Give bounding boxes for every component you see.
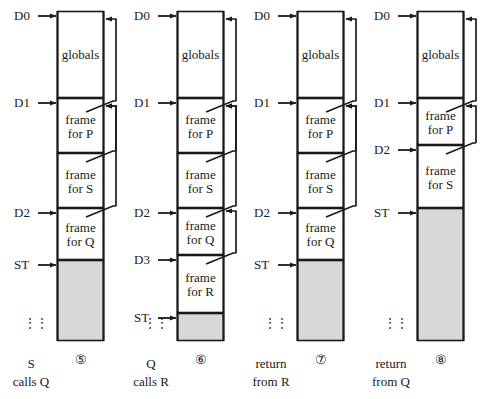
panel-6-static-link-arrow-1 (226, 106, 236, 151)
panel-6-static-link-arrow-3 (226, 211, 236, 253)
panel-5-label-frame-P-line1: frame (57, 113, 104, 127)
panel-8-static-link-arrow-1 (466, 106, 476, 143)
panel-6-label-globals-line1: globals (177, 48, 224, 62)
panel-8-register-label-D1: D1 (374, 96, 390, 109)
panel-8-label-frame-P-line1: frame (417, 109, 464, 123)
panel-8-register-label-ST: ST (374, 206, 389, 219)
panel-7-label-frame-P-line1: frame (297, 113, 344, 127)
panel-5-register-label-D2: D2 (14, 206, 30, 219)
panel-5-label-frame-S-line2: for S (57, 182, 104, 196)
panel-8-cell-free-space (418, 209, 464, 341)
panel-5-static-link-arrow-0 (106, 19, 116, 101)
panel-5-register-label-D0: D0 (14, 9, 30, 22)
panel-5-label-frame-Q-line2: for Q (57, 235, 104, 249)
panel-8-caption-line2: from Q (356, 374, 426, 389)
panel-5-caption-line2: calls Q (0, 374, 66, 389)
panel-8-label-frame-S-line1: frame (417, 164, 464, 178)
panel-7-label-frame-P-line2: for P (297, 127, 344, 141)
panel-6-static-link-arrow-2 (226, 106, 236, 206)
panel-8-static-link-arrow-0 (466, 19, 476, 101)
panel-8-label-globals-line1: globals (417, 48, 464, 62)
panel-6-label-frame-R-line1: frame (177, 271, 224, 285)
panel-5-label-globals-line1: globals (57, 48, 104, 62)
panel-7-static-link-arrow-1 (346, 106, 356, 151)
panel-7-label-frame-Q-line2: for Q (297, 235, 344, 249)
panel-6-caption-line2: calls R (116, 374, 186, 389)
panel-6-label-frame-Q-line2: for Q (177, 233, 224, 247)
panel-8-register-label-D2: D2 (374, 143, 390, 156)
panel-6-cell-free-space (178, 314, 224, 341)
panel-5-static-link-arrow-1 (106, 106, 116, 151)
panel-5-label-frame-S-line1: frame (57, 168, 104, 182)
panel-7-register-label-D0: D0 (254, 9, 270, 22)
panel-7-static-link-arrow-0 (346, 19, 356, 101)
panel-5-label-frame-Q-line1: frame (57, 221, 104, 235)
panel-7-label-frame-S-line2: for S (297, 182, 344, 196)
panel-5-label-frame-P-line2: for P (57, 127, 104, 141)
panel-7-register-label-D2: D2 (254, 206, 270, 219)
panel-8-label-frame-S-line2: for S (417, 178, 464, 192)
panel-8-caption-dots: ⋮⋮ (384, 318, 398, 329)
panel-5-cell-free-space (58, 261, 104, 341)
panel-5-static-link-arrow-2 (106, 106, 116, 206)
panel-8-label-frame-P-line2: for P (417, 123, 464, 137)
panel-7-caption-dots: ⋮⋮ (264, 318, 278, 329)
panel-5-register-label-D1: D1 (14, 96, 30, 109)
panel-6-register-label-D1: D1 (134, 96, 150, 109)
panel-6-label-frame-P-line1: frame (177, 113, 224, 127)
panel-6-label-frame-S-line1: frame (177, 168, 224, 182)
panel-8-caption-line1: return (356, 356, 426, 371)
panel-6-label-frame-S-line2: for S (177, 182, 224, 196)
panel-6-static-link-arrow-0 (226, 19, 236, 101)
panel-7-label-frame-S-line1: frame (297, 168, 344, 182)
panel-6-label-frame-R-line2: for R (177, 285, 224, 299)
panel-6-register-label-D0: D0 (134, 9, 150, 22)
panel-7-register-label-D1: D1 (254, 96, 270, 109)
diagram-canvas: globalsframefor Pframefor Sframefor QD0D… (0, 0, 483, 399)
panel-6-register-label-D2: D2 (134, 206, 150, 219)
panel-7-cell-free-space (298, 261, 344, 341)
panel-6-label-frame-P-line2: for P (177, 127, 224, 141)
panel-5-caption-line1: S (0, 356, 66, 371)
panel-7-register-label-ST: ST (254, 258, 269, 271)
panel-7-static-link-arrow-2 (346, 106, 356, 206)
panel-5-register-label-ST: ST (14, 258, 29, 271)
panel-7-label-frame-Q-line1: frame (297, 221, 344, 235)
panel-7-caption-line1: return (236, 356, 306, 371)
panel-7-label-globals-line1: globals (297, 48, 344, 62)
panel-6-caption-dots: ⋮⋮ (144, 318, 158, 329)
panel-5-caption-dots: ⋮⋮ (24, 318, 38, 329)
panel-8-register-label-D0: D0 (374, 9, 390, 22)
panel-6-register-label-D3: D3 (134, 253, 150, 266)
panel-6-caption-line1: Q (116, 356, 186, 371)
panel-7-caption-line2: from R (236, 374, 306, 389)
panel-6-label-frame-Q-line1: frame (177, 219, 224, 233)
